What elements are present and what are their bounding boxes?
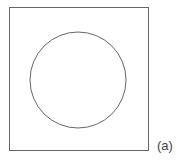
inner-circle	[30, 32, 126, 128]
diagram-canvas	[0, 0, 181, 161]
figure-label: (a)	[157, 138, 173, 153]
